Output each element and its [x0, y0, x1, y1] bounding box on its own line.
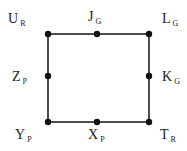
- label-T-main: T: [160, 127, 169, 142]
- label-T: TR: [160, 128, 176, 144]
- label-X-sub: P: [100, 135, 104, 144]
- label-L-sub: G: [173, 19, 179, 28]
- label-Z-main: Z: [12, 69, 21, 84]
- node-T: [146, 119, 152, 125]
- square-edges: [48, 34, 149, 122]
- label-L-main: L: [162, 11, 171, 26]
- label-K: KG: [162, 70, 180, 86]
- label-J: JG: [88, 10, 101, 26]
- node-J: [94, 31, 100, 37]
- label-Z: ZP: [12, 70, 27, 86]
- label-Y-sub: P: [27, 135, 31, 144]
- label-J-sub: G: [95, 17, 101, 26]
- label-Y-main: Y: [15, 127, 25, 142]
- label-J-main: J: [88, 9, 93, 24]
- label-Y: YP: [15, 128, 32, 144]
- label-K-main: K: [162, 69, 172, 84]
- node-Y: [45, 119, 51, 125]
- label-T-sub: R: [171, 135, 176, 144]
- node-X: [94, 119, 100, 125]
- node-K: [146, 73, 152, 79]
- node-Z: [45, 73, 51, 79]
- node-U: [45, 31, 51, 37]
- node-L: [146, 31, 152, 37]
- label-X: XP: [88, 128, 105, 144]
- label-X-main: X: [88, 127, 98, 142]
- label-K-sub: G: [174, 77, 180, 86]
- label-L: LG: [162, 12, 178, 28]
- label-U: UR: [8, 12, 25, 28]
- label-Z-sub: P: [23, 77, 27, 86]
- label-U-main: U: [8, 11, 18, 26]
- label-U-sub: R: [20, 19, 25, 28]
